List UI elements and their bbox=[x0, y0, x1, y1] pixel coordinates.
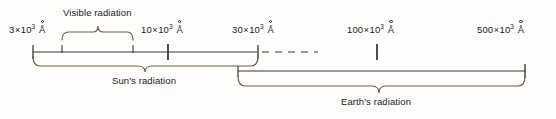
visible-radiation-brace-path bbox=[62, 26, 133, 40]
tick-label-100e3: 100×103 Å bbox=[347, 24, 394, 35]
tick-label-3e3: 3×103 Å bbox=[9, 24, 45, 35]
earths-radiation-brace-path bbox=[238, 76, 525, 93]
spectrum-figure: 3×103 Å 10×103 Å 30×103 Å 100×103 Å 500×… bbox=[0, 0, 556, 119]
tick-label-500e3: 500×103 Å bbox=[477, 24, 524, 35]
angstrom-unit: Å bbox=[517, 24, 524, 35]
angstrom-unit: Å bbox=[175, 24, 182, 35]
visible-radiation-label: Visible radiation bbox=[63, 7, 132, 18]
angstrom-unit: Å bbox=[266, 24, 273, 35]
angstrom-unit: Å bbox=[38, 24, 45, 35]
suns-radiation-brace-path bbox=[33, 56, 258, 72]
suns-radiation-label: Sun's radiation bbox=[112, 75, 176, 86]
tick-label-30e3: 30×103 Å bbox=[232, 24, 274, 35]
earths-radiation-label: Earth's radiation bbox=[341, 96, 411, 107]
tick-label-10e3: 10×103 Å bbox=[141, 24, 183, 35]
angstrom-unit: Å bbox=[387, 24, 394, 35]
